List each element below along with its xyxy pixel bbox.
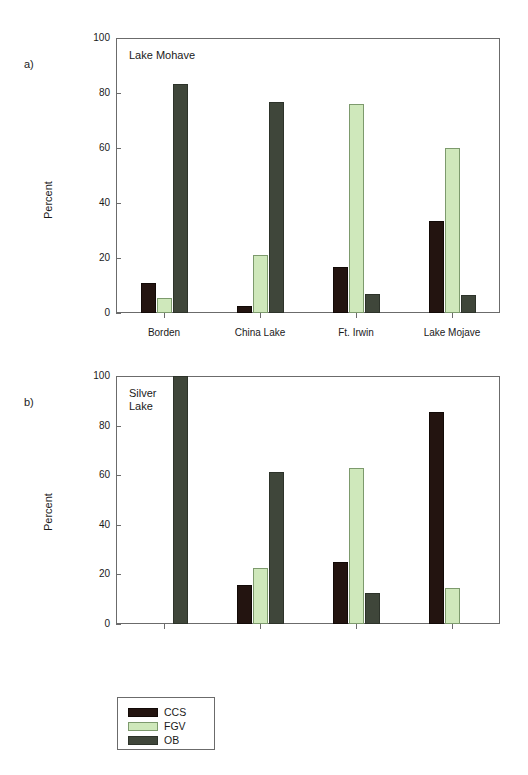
y-tick-mark	[116, 525, 121, 526]
x-tick-mark	[260, 624, 261, 629]
y-tick-mark	[116, 475, 121, 476]
bar-ob-china-lake	[269, 472, 284, 624]
legend-item-ccs: CCS	[128, 707, 186, 717]
bar-ccs-lake-mojave	[429, 412, 444, 624]
bar-ccs-ft-irwin	[333, 562, 348, 624]
legend-item-fgv: FGV	[128, 721, 186, 731]
x-tick-mark	[164, 624, 165, 629]
y-tick-label: 100	[82, 371, 110, 381]
y-tick-label: 60	[82, 470, 110, 480]
y-tick-label: 80	[82, 421, 110, 431]
figure-caption	[26, 764, 508, 775]
bar-fgv-china-lake	[253, 568, 268, 624]
y-tick-label: 40	[82, 520, 110, 530]
legend-label: OB	[164, 735, 179, 745]
y-tick-mark	[116, 624, 121, 625]
panel-b-title: Silver Lake	[129, 387, 157, 413]
y-tick-mark	[116, 426, 121, 427]
y-tick-mark	[116, 376, 121, 377]
y-tick-label: 20	[82, 569, 110, 579]
panel-b: b) Percent Silver Lake 020406080100	[0, 0, 528, 660]
x-tick-mark	[452, 624, 453, 629]
bar-ob-ft-irwin	[365, 593, 380, 624]
legend-item-ob: OB	[128, 735, 179, 745]
bar-ccs-china-lake	[237, 585, 252, 624]
bar-ob-borden	[173, 376, 188, 624]
panel-b-label: b)	[24, 396, 34, 408]
panel-b-y-axis-title: Percent	[42, 493, 54, 531]
y-tick-label: 0	[82, 619, 110, 629]
legend-label: FGV	[164, 721, 186, 731]
legend-label: CCS	[164, 707, 186, 717]
y-tick-mark	[116, 574, 121, 575]
legend-swatch-ccs-icon	[128, 708, 158, 717]
bar-fgv-ft-irwin	[349, 468, 364, 624]
x-tick-mark	[356, 624, 357, 629]
legend-swatch-fgv-icon	[128, 722, 158, 731]
bar-fgv-lake-mojave	[445, 588, 460, 624]
figure-two-panel-bar-chart: a) Percent Lake Mohave 020406080100Borde…	[0, 0, 528, 775]
legend-swatch-ob-icon	[128, 736, 158, 745]
